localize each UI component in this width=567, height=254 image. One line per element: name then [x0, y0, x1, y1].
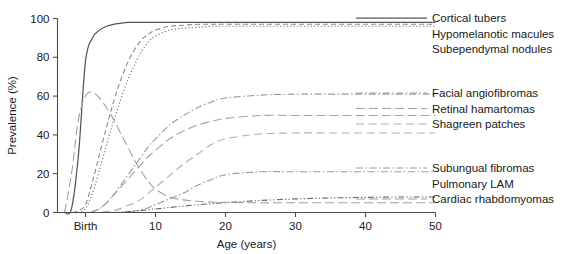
curve-retinal-hamartomas: [65, 115, 436, 212]
y-tick-label: 0: [43, 207, 49, 219]
curve-facial-angiofibromas: [65, 94, 436, 212]
x-tick-label: 20: [219, 220, 232, 232]
curves-group: [65, 22, 436, 214]
x-tick-label: 10: [149, 220, 162, 232]
y-tick-label: 60: [37, 90, 50, 102]
y-tick-label: 40: [37, 129, 50, 141]
curve-pulmonary-lam: [65, 197, 436, 213]
x-tick-label: Birth: [74, 220, 98, 232]
x-tick-label: 50: [429, 220, 442, 232]
curve-cardiac-rhabdomyomas: [65, 92, 436, 212]
legend-label-retinal-hamartomas: Retinal hamartomas: [432, 103, 535, 115]
legend-group: Cortical tubersHypomelanotic maculesSube…: [356, 12, 554, 205]
curve-subungual-fibromas: [65, 172, 436, 213]
legend-label-subependymal-nodules: Subependymal nodules: [432, 43, 552, 55]
x-tick-label: 30: [289, 220, 302, 232]
y-tick-label: 100: [30, 13, 49, 25]
legend-label-pulmonary-lam: Pulmonary LAM: [432, 178, 514, 190]
axes-group: 020406080100Birth1020304050Age (years)Pr…: [6, 13, 442, 250]
prevalence-chart-figure: 020406080100Birth1020304050Age (years)Pr…: [0, 0, 567, 254]
x-axis-title: Age (years): [217, 238, 277, 250]
legend-label-shagreen-patches: Shagreen patches: [432, 118, 526, 130]
y-axis-title: Prevalence (%): [6, 76, 18, 155]
legend-label-facial-angiofibromas: Facial angiofibromas: [432, 87, 538, 99]
curve-cortical-tubers: [65, 22, 436, 214]
chart-canvas: 020406080100Birth1020304050Age (years)Pr…: [0, 0, 567, 254]
legend-label-cardiac-rhabdomyomas: Cardiac rhabdomyomas: [432, 193, 554, 205]
curve-hypomelanotic-macules: [65, 24, 436, 212]
legend-label-subungual-fibromas: Subungual fibromas: [432, 162, 535, 174]
legend-label-hypomelanotic-macules: Hypomelanotic macules: [432, 28, 554, 40]
y-tick-label: 80: [37, 51, 50, 63]
x-tick-label: 40: [359, 220, 372, 232]
legend-label-cortical-tubers: Cortical tubers: [432, 12, 506, 24]
curve-subependymal-nodules: [65, 26, 436, 213]
y-tick-label: 20: [37, 168, 50, 180]
